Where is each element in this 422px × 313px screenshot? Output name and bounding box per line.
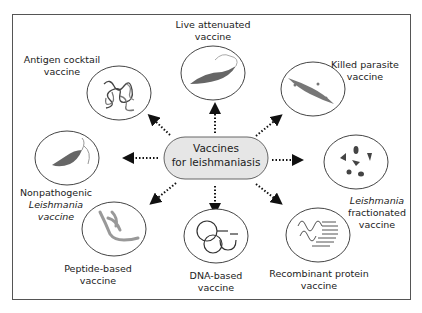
arrow-to-peptide — [154, 183, 176, 201]
label-line: vaccine — [58, 275, 138, 287]
label-killed-parasite: Killed parasite vaccine — [324, 59, 406, 83]
label-live-attenuated: Live attenuated vaccine — [173, 19, 253, 43]
label-fractionated: Leishmania fractionated vaccine — [346, 195, 408, 231]
label-line-italic: Leishmania — [346, 195, 408, 207]
label-line: fractionated — [346, 207, 408, 219]
label-line: vaccine — [173, 31, 253, 43]
center-title: Vaccines for leishmaniasis — [166, 141, 266, 169]
italic-text: vaccine — [38, 211, 74, 222]
label-line: Killed parasite — [324, 59, 406, 71]
label-line: Recombinant protein — [268, 268, 370, 280]
recombinant-circle — [286, 208, 350, 262]
label-line: Peptide-based — [58, 263, 138, 275]
arrow-to-recombinant — [256, 184, 278, 201]
label-line-italic: Leishmania — [16, 199, 96, 211]
label-nonpathogenic: Nonpathogenic Leishmania vaccine — [16, 187, 96, 223]
label-line: vaccine — [346, 219, 408, 231]
italic-text: Leishmania — [350, 195, 404, 206]
center-title-line1: Vaccines — [166, 141, 266, 155]
label-recombinant-protein: Recombinant protein vaccine — [268, 268, 370, 292]
label-peptide-based: Peptide-based vaccine — [58, 263, 138, 287]
center-title-line2: for leishmaniasis — [166, 155, 266, 169]
italic-text: Leishmania — [29, 199, 83, 210]
arrow-to-cocktail — [152, 118, 170, 135]
arrow-to-killed — [256, 118, 278, 136]
label-line: vaccine — [184, 282, 248, 294]
label-line: Live attenuated — [173, 19, 253, 31]
label-line: DNA-based — [184, 270, 248, 282]
label-dna-based: DNA-based vaccine — [184, 270, 248, 294]
label-line: vaccine — [268, 280, 370, 292]
label-line-italic: vaccine — [16, 211, 96, 223]
label-line: vaccine — [22, 66, 102, 78]
label-line: Antigen cocktail — [22, 54, 102, 66]
label-antigen-cocktail: Antigen cocktail vaccine — [22, 54, 102, 78]
label-line: Nonpathogenic — [16, 187, 96, 199]
label-line: vaccine — [324, 71, 406, 83]
